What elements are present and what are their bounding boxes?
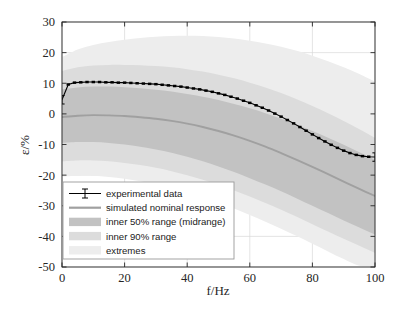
legend-item-label: experimental data bbox=[106, 188, 183, 199]
y-tick-label: -20 bbox=[38, 169, 55, 183]
data-marker bbox=[311, 133, 314, 136]
data-marker bbox=[323, 140, 326, 143]
data-marker bbox=[148, 83, 151, 86]
data-marker bbox=[298, 126, 301, 129]
data-marker bbox=[348, 152, 351, 155]
data-marker bbox=[198, 88, 201, 91]
data-marker bbox=[98, 81, 101, 84]
data-marker bbox=[279, 115, 282, 118]
legend-patch-swatch bbox=[69, 246, 101, 254]
y-tick-label: 10 bbox=[43, 77, 56, 91]
data-marker bbox=[85, 81, 88, 84]
y-tick-label: -40 bbox=[38, 230, 55, 244]
data-marker bbox=[135, 82, 138, 85]
legend-item-label: simulated nominal response bbox=[106, 202, 225, 213]
y-axis-label: ε/% bbox=[17, 135, 32, 155]
y-tick-label: -10 bbox=[38, 138, 55, 152]
data-marker bbox=[160, 84, 163, 87]
data-marker bbox=[192, 87, 195, 90]
data-marker bbox=[123, 81, 126, 84]
legend-item-extremes[interactable]: extremes bbox=[69, 245, 146, 256]
data-marker bbox=[186, 86, 189, 89]
data-marker bbox=[223, 94, 226, 97]
data-marker bbox=[167, 84, 170, 87]
data-marker bbox=[217, 92, 220, 95]
data-marker bbox=[254, 104, 257, 107]
x-tick-label: 20 bbox=[118, 271, 131, 285]
legend-item-inner-90-range[interactable]: inner 90% range bbox=[69, 231, 176, 242]
x-tick-label: 40 bbox=[181, 271, 194, 285]
data-marker bbox=[304, 129, 307, 132]
data-marker bbox=[317, 137, 320, 140]
data-marker bbox=[110, 81, 113, 84]
data-marker bbox=[286, 119, 289, 122]
data-marker bbox=[292, 122, 295, 125]
data-marker bbox=[361, 155, 364, 158]
data-marker bbox=[117, 81, 120, 84]
data-marker bbox=[242, 99, 245, 102]
y-tick-label: -30 bbox=[38, 199, 55, 213]
data-marker bbox=[129, 82, 132, 85]
data-marker bbox=[211, 91, 214, 94]
data-marker bbox=[329, 144, 332, 147]
data-marker bbox=[73, 81, 76, 84]
data-marker bbox=[79, 81, 82, 84]
data-marker bbox=[342, 149, 345, 152]
legend-item-label: extremes bbox=[106, 245, 146, 256]
legend-patch-swatch bbox=[69, 218, 101, 226]
y-tick-label: 20 bbox=[43, 46, 56, 60]
data-marker bbox=[261, 107, 264, 110]
x-tick-label: 100 bbox=[366, 271, 385, 285]
x-tick-label: 80 bbox=[306, 271, 319, 285]
x-tick-label: 0 bbox=[59, 271, 65, 285]
x-axis-label: f/Hz bbox=[206, 283, 229, 298]
data-marker bbox=[173, 85, 176, 88]
data-marker bbox=[104, 81, 107, 84]
data-marker bbox=[229, 95, 232, 98]
legend-item-label: inner 50% range (midrange) bbox=[106, 216, 225, 227]
x-tick-label: 60 bbox=[244, 271, 257, 285]
data-marker bbox=[154, 83, 157, 86]
data-marker bbox=[367, 156, 370, 159]
legend-patch-swatch bbox=[69, 232, 101, 240]
chart-svg: 020406080100 3020100-10-20-30-40-50 f/Hz… bbox=[0, 0, 399, 315]
data-marker bbox=[273, 112, 276, 115]
y-tick-label: 30 bbox=[43, 15, 56, 29]
legend-item-label: inner 90% range bbox=[106, 231, 176, 242]
data-marker bbox=[248, 102, 251, 105]
y-tick-label: 0 bbox=[49, 107, 55, 121]
data-marker bbox=[236, 97, 239, 100]
legend-item-inner-50-range-midrange-[interactable]: inner 50% range (midrange) bbox=[69, 216, 225, 227]
data-marker bbox=[336, 147, 339, 150]
data-marker bbox=[267, 109, 270, 112]
data-marker bbox=[92, 81, 95, 84]
y-tick-label: -50 bbox=[38, 260, 55, 274]
data-marker bbox=[204, 89, 207, 92]
data-marker bbox=[179, 85, 182, 88]
data-marker bbox=[142, 82, 145, 85]
chart-figure: 020406080100 3020100-10-20-30-40-50 f/Hz… bbox=[0, 0, 399, 315]
data-marker bbox=[67, 83, 70, 86]
data-marker bbox=[355, 154, 358, 157]
chart-legend[interactable]: experimental datasimulated nominal respo… bbox=[63, 182, 234, 259]
